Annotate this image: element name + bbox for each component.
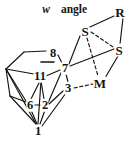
sulfur-right-label: S [115,44,123,57]
cage-vertex-8-label: 8 [49,47,56,60]
cage-vertex-1-label: 1 [34,125,41,138]
omega-angle-symbol: w [42,4,50,16]
substituent-r-label: R [115,6,125,19]
bond-11-2 [41,81,44,99]
cage-vertex-7-label: 7 [61,62,68,75]
bond-left-11 [6,69,34,74]
cage-vertex-3-label: 3 [64,82,71,95]
diagram-canvas [0,0,134,151]
sulfur-upper-label: S [81,25,89,38]
bond-11-6 [31,81,40,99]
bond-3-M-dashed [74,84,93,88]
bond-sR-M [105,56,118,78]
bond-R-sR [120,18,123,44]
cage-vertex-6-label: 6 [26,99,33,112]
bond-2-1 [40,110,45,124]
metal-center-label: M [93,77,106,90]
bond-7-sR [70,49,114,66]
cage-vertex-11-label: 11 [34,70,47,83]
bond-sU-sR-dashed [91,32,113,47]
bond-sU-M-dashed [87,38,98,76]
bond-sU-R [90,16,114,27]
bond-11-7 [46,70,60,76]
bond-tl-left [6,52,24,69]
bond-tl-8 [24,51,46,52]
angle-label: angle [61,4,87,16]
cage-vertex-2-label: 2 [41,99,48,112]
bond-2-3 [49,91,63,104]
bond-7-sU [69,36,80,64]
carborane-dithiolate-diagram: w angle R S S M 8 7 11 3 6 2 1 [0,0,134,151]
